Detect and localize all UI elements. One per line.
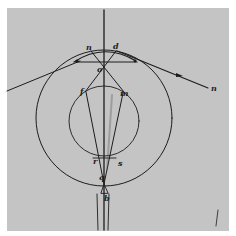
- label-r: r: [93, 156, 98, 166]
- label-m: m: [120, 88, 128, 98]
- left-junction-dot: [75, 59, 78, 62]
- eye-optics-diagram: n d o f m r s q b n: [0, 0, 236, 236]
- stray-mark: [216, 210, 218, 226]
- label-n-right: n: [211, 83, 217, 93]
- label-d: d: [113, 41, 119, 51]
- diagram-frame: n d o f m r s q b n: [0, 0, 236, 236]
- arrow-mark-icon: [176, 73, 183, 77]
- label-f: f: [79, 86, 85, 96]
- optic-nerve-left: [97, 194, 98, 230]
- label-o: o: [97, 64, 103, 74]
- label-q: q: [99, 172, 105, 182]
- ray-f-to-q: [86, 92, 104, 184]
- label-n-top: n: [86, 42, 92, 52]
- right-junction-dot: [134, 60, 137, 63]
- label-b: b: [104, 193, 110, 203]
- label-s: s: [118, 158, 123, 168]
